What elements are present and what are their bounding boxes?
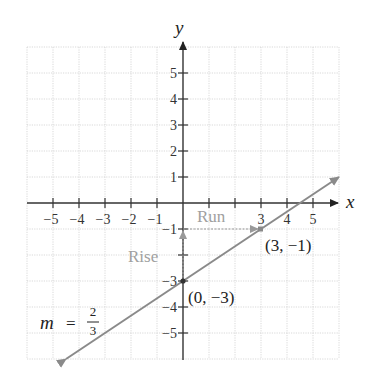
point-3-neg1 bbox=[258, 227, 263, 232]
x-tick-label: 5 bbox=[310, 212, 317, 227]
y-tick-label: 1 bbox=[170, 170, 177, 185]
slope-numerator: 2 bbox=[90, 304, 97, 319]
x-tick-label: −1 bbox=[148, 212, 163, 227]
point-b-label: (3, −1) bbox=[265, 236, 311, 255]
slope-denominator: 3 bbox=[90, 323, 97, 338]
point-a-label: (0, −3) bbox=[188, 288, 234, 307]
x-tick-label: −5 bbox=[44, 212, 59, 227]
x-axis-label: x bbox=[345, 191, 355, 212]
point-0-neg3 bbox=[180, 278, 185, 283]
y-tick-label: −5 bbox=[162, 326, 177, 341]
run-label: Run bbox=[197, 207, 226, 226]
y-axis-label: y bbox=[173, 17, 184, 38]
rise-label: Rise bbox=[128, 247, 158, 266]
y-tick-label: −4 bbox=[162, 300, 177, 315]
slope-m: m bbox=[40, 312, 54, 333]
slope-equals: = bbox=[66, 314, 76, 333]
y-tick-label: −1 bbox=[162, 222, 177, 237]
slope-formula: m = 2 3 bbox=[40, 304, 99, 338]
line-series bbox=[66, 177, 339, 359]
x-tick-label: −4 bbox=[70, 212, 85, 227]
x-tick-label: −2 bbox=[122, 212, 137, 227]
y-tick-label: 4 bbox=[170, 92, 177, 107]
y-tick-label: 3 bbox=[170, 118, 177, 133]
y-tick-label: 5 bbox=[170, 66, 177, 81]
y-tick-label: 2 bbox=[170, 144, 177, 159]
x-tick-label: 3 bbox=[258, 212, 265, 227]
coordinate-plane: −5 −4 −3 −2 −1 3 4 5 5 4 3 2 1 −1 −3 −4 … bbox=[0, 0, 371, 379]
x-tick-label: −3 bbox=[96, 212, 111, 227]
